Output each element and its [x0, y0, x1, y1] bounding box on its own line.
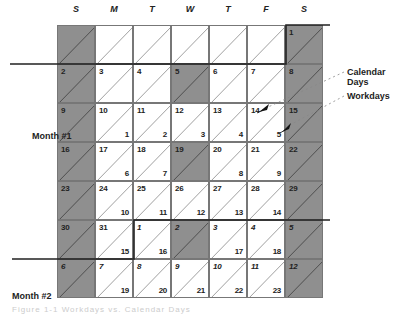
workday-number: 9 [277, 169, 281, 178]
calendar-day-number: 6 [61, 262, 65, 271]
legend-calendar-days: Calendar Days [347, 67, 403, 87]
day-cell [247, 25, 285, 64]
calendar-day-number: 15 [289, 106, 297, 115]
day-cell: 418 [247, 220, 285, 259]
calendar-day-number: 2 [175, 223, 179, 232]
workday-number: 16 [159, 247, 167, 256]
workday-number: 11 [159, 208, 167, 217]
calendar-day-number: 13 [213, 106, 221, 115]
day-cell [133, 25, 171, 64]
diagonal-divider-icon [210, 26, 247, 64]
diagonal-divider-icon [248, 26, 285, 64]
calendar-day-number: 17 [99, 145, 107, 154]
workday-number: 21 [197, 286, 205, 295]
day-cell: 145 [247, 103, 285, 142]
workday-number: 14 [273, 208, 281, 217]
day-cell: 134 [209, 103, 247, 142]
workday-number: 23 [273, 286, 281, 295]
calendar-day-number: 7 [99, 262, 103, 271]
day-cell: 219 [247, 142, 285, 181]
day-cell: 30 [57, 220, 95, 259]
day-cell: 5 [171, 64, 209, 103]
workday-number: 4 [239, 130, 243, 139]
diagonal-divider-icon [58, 26, 95, 64]
workday-number: 17 [235, 247, 243, 256]
day-cell: 820 [133, 259, 171, 298]
diagonal-divider-icon [134, 26, 171, 64]
legend-workdays: Workdays [347, 91, 390, 101]
calendar-day-number: 10 [213, 262, 221, 271]
calendar-day-number: 26 [175, 184, 183, 193]
day-cell: 123 [171, 103, 209, 142]
day-cell: 2814 [247, 181, 285, 220]
calendar-day-number: 1 [137, 223, 141, 232]
day-cell [57, 25, 95, 64]
day-cell: 2511 [133, 181, 171, 220]
day-cell [95, 25, 133, 64]
calendar-day-number: 27 [213, 184, 221, 193]
day-header: W [171, 4, 209, 14]
day-cell: 1022 [209, 259, 247, 298]
diagonal-divider-icon [172, 26, 209, 64]
day-cell: 2410 [95, 181, 133, 220]
day-header: S [57, 4, 95, 14]
day-cell: 15 [285, 103, 323, 142]
day-cell: 6 [209, 64, 247, 103]
workday-number: 7 [163, 169, 167, 178]
calendar-day-number: 1 [289, 28, 293, 37]
calendar-day-number: 5 [289, 223, 293, 232]
calendar-day-number: 7 [251, 67, 255, 76]
calendar-grid: 1234567891011121231341451516176187192082… [57, 25, 323, 298]
workday-number: 10 [121, 208, 129, 217]
day-header: F [247, 4, 285, 14]
calendar-day-number: 30 [61, 223, 69, 232]
calendar-day-number: 9 [61, 106, 65, 115]
day-cell [209, 25, 247, 64]
day-header: S [285, 4, 323, 14]
day-cell: 719 [95, 259, 133, 298]
day-cell: 176 [95, 142, 133, 181]
calendar-day-number: 29 [289, 184, 297, 193]
workday-number: 3 [201, 130, 205, 139]
day-cell: 5 [285, 220, 323, 259]
day-cell: 22 [285, 142, 323, 181]
month-1-label: Month #1 [32, 131, 72, 141]
day-cell: 187 [133, 142, 171, 181]
day-cell: 4 [133, 64, 171, 103]
workday-number: 8 [239, 169, 243, 178]
diagonal-divider-icon [96, 26, 133, 64]
workday-number: 20 [159, 286, 167, 295]
figure-caption: Figure 1-1 Workdays vs. Calendar Days [12, 305, 191, 314]
day-cell: 1123 [247, 259, 285, 298]
day-cell: 1 [285, 25, 323, 64]
calendar-day-number: 8 [137, 262, 141, 271]
calendar-day-number: 31 [99, 223, 107, 232]
day-header: T [209, 4, 247, 14]
day-cell: 7 [247, 64, 285, 103]
calendar-day-number: 5 [175, 67, 179, 76]
calendar-day-number: 19 [175, 145, 183, 154]
day-cell: 16 [57, 142, 95, 181]
day-cell: 208 [209, 142, 247, 181]
calendar-day-number: 12 [289, 262, 297, 271]
workday-number: 6 [125, 169, 129, 178]
month-2-label: Month #2 [12, 291, 52, 301]
calendar-day-number: 25 [137, 184, 145, 193]
calendar-day-number: 21 [251, 145, 259, 154]
calendar-day-number: 18 [137, 145, 145, 154]
workday-number: 13 [235, 208, 243, 217]
workday-number: 12 [197, 208, 205, 217]
day-cell: 921 [171, 259, 209, 298]
calendar-day-number: 16 [61, 145, 69, 154]
workday-number: 2 [163, 130, 167, 139]
calendar-day-number: 4 [137, 67, 141, 76]
day-cell: 29 [285, 181, 323, 220]
day-cell: 19 [171, 142, 209, 181]
day-header: T [133, 4, 171, 14]
calendar-day-number: 6 [213, 67, 217, 76]
day-cell: 101 [95, 103, 133, 142]
day-cell: 3115 [95, 220, 133, 259]
day-cell: 317 [209, 220, 247, 259]
calendar-day-number: 9 [175, 262, 179, 271]
workday-number: 22 [235, 286, 243, 295]
